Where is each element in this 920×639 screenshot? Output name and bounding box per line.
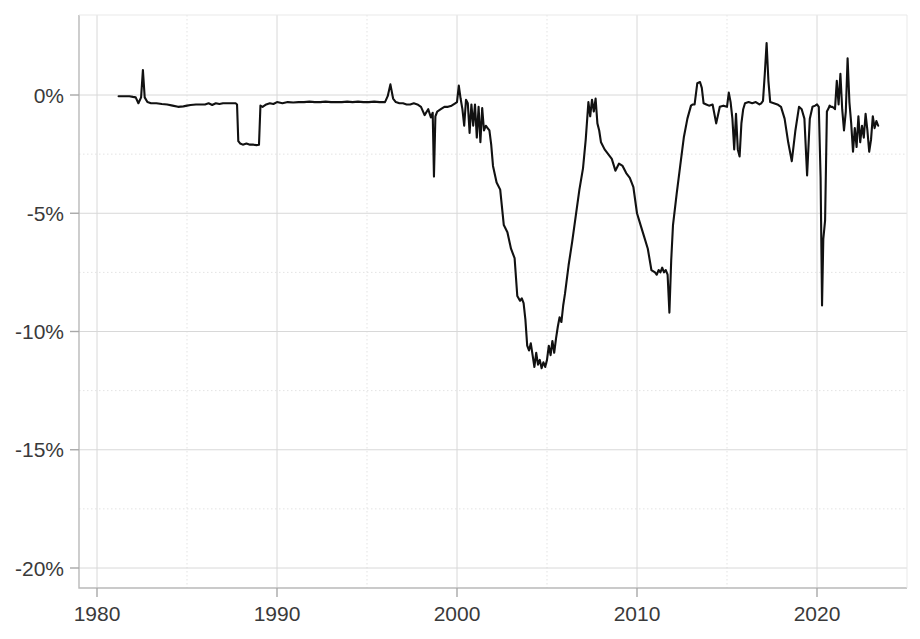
x-tick-label: 2000: [434, 602, 481, 625]
y-tick-label: -15%: [15, 438, 64, 461]
y-tick-label: 0%: [34, 84, 64, 107]
tick-marks: [70, 95, 817, 597]
x-tick-label: 2010: [614, 602, 661, 625]
y-tick-label: -5%: [27, 202, 64, 225]
chart-container: 0%-5%-10%-15%-20% 19801990200020102020: [0, 0, 920, 639]
y-tick-label: -20%: [15, 557, 64, 580]
x-tick-label: 2020: [794, 602, 841, 625]
major-gridlines: [79, 15, 907, 588]
axis-spines: [79, 15, 907, 588]
x-tick-label: 1990: [254, 602, 301, 625]
drawdown-series-line: [119, 43, 879, 368]
x-axis-tick-labels: 19801990200020102020: [74, 602, 841, 625]
minor-gridlines: [79, 15, 907, 588]
line-chart: 0%-5%-10%-15%-20% 19801990200020102020: [0, 0, 920, 639]
x-tick-label: 1980: [74, 602, 121, 625]
y-axis-tick-labels: 0%-5%-10%-15%-20%: [15, 84, 64, 580]
y-tick-label: -10%: [15, 320, 64, 343]
